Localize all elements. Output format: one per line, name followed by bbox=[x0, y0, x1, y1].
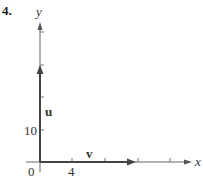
origin-label: 0 bbox=[28, 164, 35, 177]
vector-diagram: y x 0 4 10 u v bbox=[0, 0, 203, 177]
x-tick-label: 4 bbox=[68, 164, 75, 177]
x-axis-label: x bbox=[194, 154, 201, 169]
y-axis-arrow-icon bbox=[38, 22, 43, 30]
y-tick-label: 10 bbox=[24, 123, 37, 138]
vector-u-label: u bbox=[45, 104, 52, 119]
vector-u-arrow-icon bbox=[37, 65, 44, 74]
vector-v-label: v bbox=[86, 146, 93, 161]
y-axis-label: y bbox=[34, 4, 42, 19]
x-axis-arrow-icon bbox=[184, 160, 192, 165]
vector-v-arrow-icon bbox=[127, 159, 136, 166]
